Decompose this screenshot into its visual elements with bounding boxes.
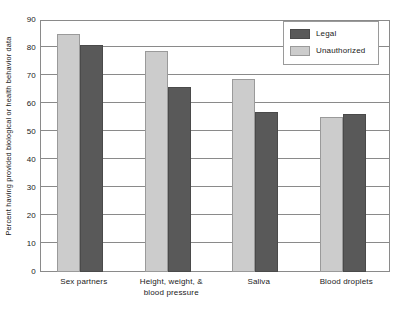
bar-legal	[343, 114, 366, 272]
y-tick-label: 50	[0, 128, 36, 136]
y-tick-label: 20	[0, 212, 36, 220]
bar-unauthorized	[320, 117, 343, 272]
y-tick-label: 90	[0, 16, 36, 24]
x-tick-label: Saliva	[215, 276, 303, 287]
y-tick-label: 80	[0, 44, 36, 52]
legend-swatch-legal	[290, 29, 310, 39]
x-axis-ticks: Sex partnersHeight, weight, &blood press…	[40, 276, 390, 312]
y-tick-label: 70	[0, 72, 36, 80]
x-tick-label: Blood droplets	[303, 276, 391, 287]
bar-group	[128, 20, 216, 272]
y-tick-label: 30	[0, 184, 36, 192]
legend-entry: Unauthorized	[290, 44, 372, 58]
legend-label: Unauthorized	[316, 46, 365, 56]
bar-legal	[255, 112, 278, 272]
y-tick-label: 60	[0, 100, 36, 108]
bar-chart: Percent having provided biological or he…	[0, 0, 397, 312]
bar-legal	[80, 45, 103, 272]
bar-unauthorized	[57, 34, 80, 272]
bar-group	[40, 20, 128, 272]
bar-unauthorized	[145, 51, 168, 272]
x-tick-label: Height, weight, &blood pressure	[128, 276, 216, 298]
bar-legal	[168, 87, 191, 272]
legend-label: Legal	[316, 29, 336, 39]
y-tick-label: 10	[0, 240, 36, 248]
x-tick-label: Sex partners	[40, 276, 128, 287]
legend-swatch-unauthorized	[290, 46, 310, 56]
legend-entry: Legal	[290, 27, 372, 41]
legend: Legal Unauthorized	[283, 21, 379, 65]
bar-unauthorized	[232, 79, 255, 272]
y-tick-label: 0	[0, 268, 36, 276]
y-tick-label: 40	[0, 156, 36, 164]
y-axis-ticks: 0102030405060708090	[0, 20, 36, 272]
